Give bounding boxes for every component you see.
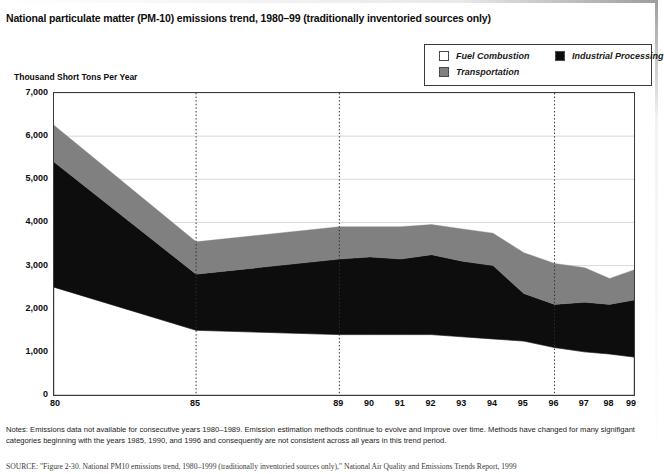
page-edge-top xyxy=(0,0,658,3)
x-tick-label: 96 xyxy=(549,398,559,408)
legend-swatch-fuel-combustion xyxy=(439,51,449,61)
notes-prefix: Notes: xyxy=(6,425,28,434)
plot-area xyxy=(53,92,635,396)
x-tick-label: 98 xyxy=(604,398,614,408)
legend-label-industrial-processing: Industrial Processing xyxy=(572,51,664,61)
legend-label-fuel-combustion: Fuel Combustion xyxy=(456,51,530,61)
x-tick-label: 92 xyxy=(426,398,436,408)
chart-source: SOURCE: "Figure 2-30. National PM10 emis… xyxy=(6,461,652,474)
x-tick-label: 97 xyxy=(579,398,589,408)
y-axis-title: Thousand Short Tons Per Year xyxy=(14,72,137,82)
y-tick-label: 2,000 xyxy=(4,303,48,313)
x-axis-tick-labels: 80858990919293949596979899 xyxy=(53,398,633,414)
chart-legend: Fuel Combustion Transportation Industria… xyxy=(424,44,652,86)
x-tick-label: 91 xyxy=(395,398,405,408)
y-axis-tick-labels: 7,0006,0005,0004,0003,0002,0001,0000 xyxy=(0,92,48,394)
y-tick-label: 3,000 xyxy=(4,260,48,270)
x-tick-label: 85 xyxy=(190,398,200,408)
y-tick-label: 5,000 xyxy=(4,173,48,183)
legend-swatch-transportation xyxy=(439,67,449,77)
legend-swatch-industrial-processing xyxy=(555,51,565,61)
x-tick-label: 99 xyxy=(626,398,636,408)
chart-title: National particulate matter (PM-10) emis… xyxy=(6,12,491,24)
y-tick-label: 6,000 xyxy=(4,130,48,140)
legend-item-fuel-combustion: Fuel Combustion xyxy=(439,51,530,61)
x-tick-label: 93 xyxy=(456,398,466,408)
legend-label-transportation: Transportation xyxy=(456,67,519,77)
page-edge-right xyxy=(655,0,658,474)
x-tick-label: 94 xyxy=(487,398,497,408)
x-tick-label: 90 xyxy=(364,398,374,408)
legend-item-industrial-processing: Industrial Processing xyxy=(555,51,664,61)
notes-text: Emissions data not available for consecu… xyxy=(6,425,635,445)
x-tick-label: 89 xyxy=(333,398,343,408)
legend-item-transportation: Transportation xyxy=(439,67,519,77)
x-tick-label: 80 xyxy=(50,398,60,408)
y-tick-label: 4,000 xyxy=(4,216,48,226)
x-tick-label: 95 xyxy=(518,398,528,408)
chart-notes: Notes: Emissions data not available for … xyxy=(6,424,652,446)
y-tick-label: 1,000 xyxy=(4,346,48,356)
y-tick-label: 0 xyxy=(4,389,48,399)
y-tick-label: 7,000 xyxy=(4,87,48,97)
stacked-area-chart xyxy=(54,93,634,395)
